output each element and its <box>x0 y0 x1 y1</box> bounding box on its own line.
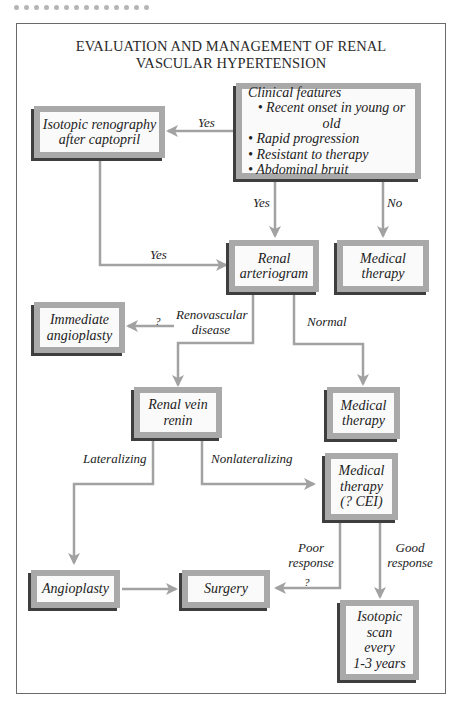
label-line: disease <box>176 322 246 337</box>
clinical-item: • Abdominal bruit <box>248 162 348 178</box>
label-question: ? <box>155 314 161 329</box>
node-angioplasty: Angioplasty <box>31 570 120 608</box>
node-text: (? CEI) <box>340 494 382 510</box>
node-text: Surgery <box>204 581 248 597</box>
node-renal-arteriogram: Renal arteriogram <box>229 240 319 292</box>
clinical-item: • Resistant to therapy <box>248 147 368 163</box>
label-yes: Yes <box>198 115 215 130</box>
node-text: Medical <box>339 463 385 479</box>
clinical-heading: Clinical features <box>248 85 341 101</box>
node-text: every <box>364 640 394 656</box>
node-text: after captopril <box>59 132 140 148</box>
node-medical-therapy-2: Medical therapy <box>327 387 400 439</box>
node-text: renin <box>163 413 192 429</box>
node-text: therapy <box>362 266 405 282</box>
label-question: ? <box>304 575 310 590</box>
node-text: Medical <box>360 251 406 267</box>
node-text: therapy <box>342 413 385 429</box>
node-isotopic-scan: Isotopic scan every 1-3 years <box>340 600 419 680</box>
label-nonlateralizing: Nonlateralizing <box>211 451 293 466</box>
label-yes: Yes <box>253 195 270 210</box>
node-text: Isotopic renography <box>43 117 156 133</box>
node-text: arteriogram <box>240 266 308 282</box>
node-text: Medical <box>341 398 387 414</box>
node-renal-vein-renin: Renal vein renin <box>134 387 222 438</box>
node-text: scan <box>367 625 393 641</box>
label-line: Renovascular <box>176 307 246 322</box>
node-text: 1-3 years <box>353 656 406 672</box>
label-line: response <box>286 555 336 570</box>
label-lateralizing: Lateralizing <box>83 451 147 466</box>
node-text: Immediate <box>50 312 109 328</box>
node-medical-therapy-cei: Medical therapy (? CEI) <box>325 453 398 520</box>
node-immediate-angioplasty: Immediate angioplasty <box>34 302 125 353</box>
arrow-arteriogram-to-medical <box>294 293 363 384</box>
label-poor-response: Poor response <box>286 540 336 570</box>
node-surgery: Surgery <box>182 570 270 608</box>
label-no: No <box>387 195 402 210</box>
node-text: therapy <box>340 479 383 495</box>
label-line: response <box>385 555 435 570</box>
clinical-item: • Recent onset in young or old <box>248 100 415 131</box>
label-yes: Yes <box>150 247 167 262</box>
node-medical-therapy-1: Medical therapy <box>337 240 429 292</box>
node-text: Angioplasty <box>42 581 109 597</box>
label-normal: Normal <box>307 314 347 329</box>
clinical-item: • Rapid progression <box>248 131 359 147</box>
label-line: Good <box>385 540 435 555</box>
label-good-response: Good response <box>385 540 435 570</box>
node-clinical-features: Clinical features • Recent onset in youn… <box>236 83 421 179</box>
node-isotopic-renography: Isotopic renography after captopril <box>34 106 165 158</box>
node-text: Renal <box>258 251 291 267</box>
node-text: angioplasty <box>47 328 112 344</box>
node-text: Renal vein <box>148 397 207 413</box>
label-line: Poor <box>286 540 336 555</box>
node-text: Isotopic <box>357 609 402 625</box>
label-renovascular-disease: Renovascular disease <box>176 307 246 337</box>
